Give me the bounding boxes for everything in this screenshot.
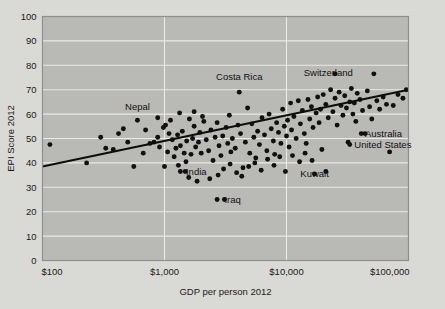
data-point xyxy=(272,163,277,168)
data-point xyxy=(267,112,272,117)
data-point xyxy=(350,112,355,117)
data-point xyxy=(328,87,333,92)
data-point xyxy=(243,140,248,145)
y-axis-tick-label: 40 xyxy=(26,157,37,168)
data-point xyxy=(189,152,194,157)
data-point xyxy=(167,131,172,136)
data-point xyxy=(317,120,322,125)
annotated-data-point xyxy=(237,90,242,95)
data-point xyxy=(384,102,389,107)
data-point xyxy=(155,135,160,140)
data-point xyxy=(264,148,269,153)
annotation-label: Kuwait xyxy=(300,168,329,179)
annotation-label: Costa Rica xyxy=(216,71,263,82)
data-point xyxy=(307,117,312,122)
data-point xyxy=(265,157,270,162)
data-point xyxy=(289,128,294,133)
data-point xyxy=(175,132,180,137)
annotation-label: Nepal xyxy=(125,101,150,112)
data-point xyxy=(290,153,295,158)
data-point xyxy=(315,95,320,100)
data-point xyxy=(253,156,258,161)
data-point xyxy=(217,143,222,148)
data-point xyxy=(246,164,251,169)
data-point xyxy=(177,110,182,115)
data-point xyxy=(192,109,197,114)
annotation-label: Australia xyxy=(365,128,403,139)
data-point xyxy=(180,129,185,134)
data-point xyxy=(269,126,274,131)
data-point xyxy=(344,106,349,111)
data-point xyxy=(162,164,167,169)
data-point xyxy=(400,96,405,101)
data-point xyxy=(353,119,358,124)
data-point xyxy=(192,124,197,129)
y-axis-tick-label: 10 xyxy=(26,231,37,242)
data-point xyxy=(284,134,289,139)
data-point xyxy=(355,91,360,96)
data-point xyxy=(131,164,136,169)
x-axis-tick-label: $100,000 xyxy=(370,266,410,277)
data-point xyxy=(245,106,250,111)
data-point xyxy=(306,97,311,102)
annotation-label: India xyxy=(186,166,207,177)
data-point xyxy=(330,109,335,114)
data-point xyxy=(252,160,257,165)
data-point xyxy=(247,151,252,156)
data-point xyxy=(182,151,187,156)
data-point xyxy=(121,126,126,131)
annotation-label: Switzerland xyxy=(304,67,353,78)
data-point xyxy=(239,174,244,179)
data-point xyxy=(176,163,181,168)
data-point xyxy=(211,158,216,163)
data-point xyxy=(84,160,89,165)
data-point xyxy=(103,146,108,151)
data-point xyxy=(337,90,342,95)
annotated-data-point xyxy=(178,169,183,174)
data-point xyxy=(304,141,309,146)
data-point xyxy=(297,159,302,164)
data-point xyxy=(155,115,160,120)
data-point xyxy=(178,143,183,148)
data-point xyxy=(184,138,189,143)
data-point xyxy=(369,117,374,122)
data-point xyxy=(298,121,303,126)
data-point xyxy=(262,132,267,137)
data-point xyxy=(251,135,256,140)
data-point xyxy=(195,179,200,184)
annotation-label: United States xyxy=(354,139,411,150)
data-point xyxy=(228,149,233,154)
data-point xyxy=(319,147,324,152)
data-point xyxy=(303,151,308,156)
annotated-data-point xyxy=(347,142,352,147)
data-point xyxy=(157,145,162,150)
data-point xyxy=(288,101,293,106)
data-point xyxy=(163,123,168,128)
data-point xyxy=(241,165,246,170)
y-axis-tick-label: 50 xyxy=(26,133,37,144)
x-axis-tick-label: $100 xyxy=(42,266,63,277)
x-axis-title: GDP per person 2012 xyxy=(179,286,271,297)
y-axis-tick-label: 100 xyxy=(21,11,37,22)
data-point xyxy=(257,142,262,147)
annotated-data-point xyxy=(215,197,220,202)
data-point xyxy=(234,170,239,175)
data-point xyxy=(342,93,347,98)
data-point xyxy=(349,86,354,91)
annotated-data-point xyxy=(135,118,140,123)
data-point xyxy=(216,173,221,178)
data-point xyxy=(340,113,345,118)
data-point xyxy=(391,103,396,108)
data-point xyxy=(311,125,316,130)
data-point xyxy=(227,113,232,118)
x-axis-tick-label: $1,000 xyxy=(150,266,179,277)
data-point xyxy=(314,110,319,115)
data-point xyxy=(199,151,204,156)
x-axis-tick-label: $10,000 xyxy=(269,266,303,277)
data-point xyxy=(326,115,331,120)
data-point xyxy=(230,136,235,141)
data-point xyxy=(285,118,290,123)
annotated-data-point xyxy=(359,131,364,136)
data-point xyxy=(365,88,370,93)
data-point xyxy=(296,98,301,103)
